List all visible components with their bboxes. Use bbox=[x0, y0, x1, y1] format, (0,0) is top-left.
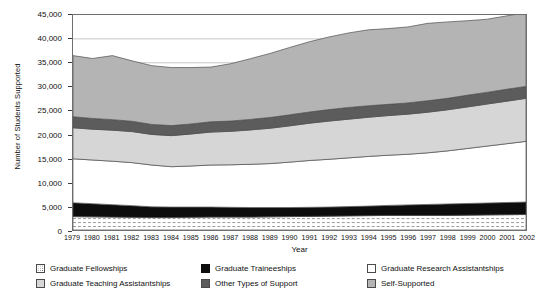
x-axis-tick-label: 1988 bbox=[242, 233, 258, 242]
legend-label: Graduate Traineeships bbox=[215, 265, 296, 273]
legend-column-3: Graduate Research Assistantships Self-Su… bbox=[367, 262, 504, 292]
area-series-group bbox=[73, 15, 526, 230]
x-axis-tick-label: 1990 bbox=[282, 233, 298, 242]
x-axis-tick-labels: 1979198019811982198319841985198619871988… bbox=[72, 233, 527, 245]
x-axis-tick-label: 1989 bbox=[262, 233, 278, 242]
x-axis-title: Year bbox=[72, 245, 527, 254]
legend-column-2: Graduate Traineeships Other Types of Sup… bbox=[201, 262, 298, 292]
x-axis-tick-label: 1999 bbox=[460, 233, 476, 242]
x-axis-tick-label: 1993 bbox=[341, 233, 357, 242]
y-axis-tick-labels: 05,00010,00015,00020,00025,00030,00035,0… bbox=[0, 0, 68, 302]
x-axis-tick-label: 1995 bbox=[381, 233, 397, 242]
y-axis-tick-mark bbox=[68, 231, 72, 232]
y-axis-tick-label: 10,000 bbox=[38, 178, 62, 187]
legend-column-1: Graduate Fellowships Graduate Teaching A… bbox=[36, 262, 170, 292]
y-axis-tick-label: 40,000 bbox=[38, 34, 62, 43]
legend-label: Graduate Teaching Assistantships bbox=[50, 280, 170, 288]
legend-swatch-graduate-research-assistantships bbox=[367, 264, 376, 273]
x-axis-tick-label: 2001 bbox=[499, 233, 515, 242]
y-axis-tick-label: 35,000 bbox=[38, 58, 62, 67]
x-axis-tick-label: 1997 bbox=[420, 233, 436, 242]
x-axis-tick-label: 1982 bbox=[123, 233, 139, 242]
legend-label: Self-Supported bbox=[381, 280, 434, 288]
legend-item: Graduate Teaching Assistantships bbox=[36, 277, 170, 290]
legend-label: Other Types of Support bbox=[215, 280, 298, 288]
legend-item: Other Types of Support bbox=[201, 277, 298, 290]
legend-swatch-graduate-fellowships bbox=[36, 264, 45, 273]
legend-label: Graduate Fellowships bbox=[50, 265, 127, 273]
x-axis-tick-label: 1996 bbox=[400, 233, 416, 242]
legend-swatch-other-types-of-support bbox=[201, 279, 210, 288]
legend-item: Graduate Fellowships bbox=[36, 262, 170, 275]
x-axis-tick-label: 1983 bbox=[143, 233, 159, 242]
y-axis-tick-label: 45,000 bbox=[38, 10, 62, 19]
x-axis-tick-label: 2000 bbox=[479, 233, 495, 242]
x-axis-tick-label: 1979 bbox=[64, 233, 80, 242]
x-axis-tick-label: 1992 bbox=[321, 233, 337, 242]
y-axis-tick-label: 20,000 bbox=[38, 130, 62, 139]
x-axis-tick-label: 1998 bbox=[440, 233, 456, 242]
y-axis-tick-label: 15,000 bbox=[38, 154, 62, 163]
chart-legend: Graduate Fellowships Graduate Teaching A… bbox=[0, 262, 555, 294]
legend-swatch-graduate-teaching-assistantships bbox=[36, 279, 45, 288]
x-axis-tick-label: 2002 bbox=[519, 233, 535, 242]
x-axis-tick-label: 1984 bbox=[163, 233, 179, 242]
x-axis-tick-label: 1986 bbox=[202, 233, 218, 242]
legend-item: Graduate Traineeships bbox=[201, 262, 298, 275]
x-axis-tick-label: 1994 bbox=[361, 233, 377, 242]
plot-svg bbox=[73, 15, 526, 230]
x-axis-tick-label: 1985 bbox=[183, 233, 199, 242]
y-axis-tick-label: 30,000 bbox=[38, 82, 62, 91]
legend-swatch-self-supported bbox=[367, 279, 376, 288]
y-axis-tick-label: 25,000 bbox=[38, 106, 62, 115]
x-axis-tick-label: 1987 bbox=[222, 233, 238, 242]
legend-item: Self-Supported bbox=[367, 277, 504, 290]
legend-swatch-graduate-traineeships bbox=[201, 264, 210, 273]
legend-item: Graduate Research Assistantships bbox=[367, 262, 504, 275]
legend-label: Graduate Research Assistantships bbox=[381, 265, 504, 273]
x-axis-tick-label: 1991 bbox=[301, 233, 317, 242]
x-axis-tick-label: 1980 bbox=[84, 233, 100, 242]
y-axis-tick-label: 5,000 bbox=[42, 202, 62, 211]
x-axis-tick-label: 1981 bbox=[104, 233, 120, 242]
stacked-area-chart: Number of Students Supported 05,00010,00… bbox=[0, 0, 555, 302]
plot-area bbox=[72, 14, 527, 231]
y-axis-tick-label: 0 bbox=[58, 227, 62, 236]
